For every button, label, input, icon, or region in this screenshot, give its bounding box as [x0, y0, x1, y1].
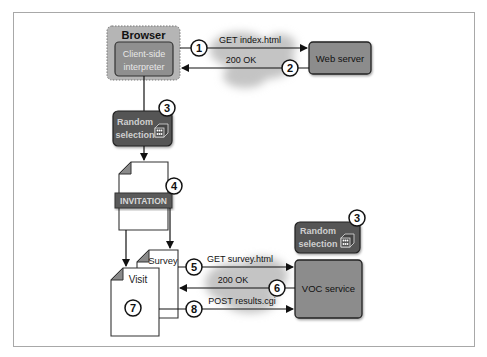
visit-label: Visit	[129, 274, 148, 285]
svg-text:6: 6	[274, 282, 280, 294]
svg-text:7: 7	[130, 302, 136, 314]
step-badge-3-top: 3	[159, 100, 175, 116]
invitation-document: INVITATION	[115, 162, 172, 230]
arrow-label-post-results: POST results.cgi	[208, 296, 275, 306]
svg-text:selection: selection	[115, 130, 154, 140]
browser-box: Browser Client-side interpreter	[107, 26, 180, 80]
svg-text:5: 5	[191, 261, 197, 273]
svg-text:3: 3	[354, 212, 360, 224]
survey-label: Survey	[148, 255, 178, 266]
step-badge-6: 6	[269, 280, 285, 296]
arrow-label-get-index: GET index.html	[219, 35, 281, 45]
voc-service-box: VOC service	[295, 260, 362, 318]
arrow-label-200-ok-bottom: 200 OK	[218, 275, 249, 285]
random-selection-top: Random selection	[113, 111, 172, 146]
dice-icon	[155, 124, 168, 137]
svg-text:1: 1	[196, 42, 202, 54]
interpreter-line1: Client-side	[123, 49, 166, 59]
browser-title: Browser	[121, 29, 166, 41]
svg-text:8: 8	[191, 303, 197, 315]
step-badge-8: 8	[186, 301, 202, 317]
step-badge-4: 4	[166, 178, 182, 194]
step-badge-2: 2	[282, 60, 298, 76]
svg-text:4: 4	[171, 180, 178, 192]
voc-flow-diagram: Browser Client-side interpreter Web serv…	[0, 0, 487, 357]
web-server-box: Web server	[309, 42, 371, 74]
arrow-label-200-ok-top: 200 OK	[226, 55, 257, 65]
svg-text:selection: selection	[298, 239, 337, 249]
svg-text:Random: Random	[300, 226, 336, 236]
svg-text:Random: Random	[117, 117, 153, 127]
dice-icon	[341, 234, 354, 247]
step-badge-7: 7	[125, 300, 141, 316]
interpreter-line2: interpreter	[123, 62, 164, 72]
step-badge-3-right: 3	[349, 210, 365, 226]
svg-text:2: 2	[287, 62, 293, 74]
arrow-label-get-survey: GET survey.html	[207, 254, 273, 264]
svg-text:3: 3	[164, 102, 170, 114]
web-server-label: Web server	[316, 53, 364, 64]
voc-service-label: VOC service	[302, 283, 355, 294]
step-badge-1: 1	[191, 40, 207, 56]
step-badge-5: 5	[186, 259, 202, 275]
invitation-label: INVITATION	[120, 196, 167, 206]
random-selection-right: Random selection	[295, 222, 360, 253]
